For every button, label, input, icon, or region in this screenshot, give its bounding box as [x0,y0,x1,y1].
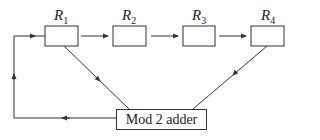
register-r1-label: R1 [54,8,68,26]
mod2-adder-label: Mod 2 adder [126,112,198,128]
register-r3-label: R3 [192,8,206,26]
register-r1-box [45,26,78,46]
register-r3-box [183,26,215,46]
register-r4-label: R4 [261,8,275,26]
register-r2-label: R2 [122,8,136,26]
register-r4-box [251,26,284,46]
mod2-adder-box: Mod 2 adder [116,109,207,130]
register-r2-box [113,26,146,46]
